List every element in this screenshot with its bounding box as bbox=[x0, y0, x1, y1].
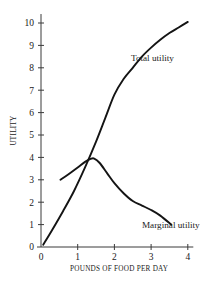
y-tick-label: 3 bbox=[29, 175, 34, 185]
curve-marginal-utility bbox=[60, 158, 171, 224]
x-tick-label: 3 bbox=[149, 252, 154, 262]
x-tick-label: 4 bbox=[185, 252, 190, 262]
series-label-total-utility: Total utility bbox=[131, 53, 174, 63]
series-annotations: Total utilityMarginal utility bbox=[131, 53, 200, 230]
y-tick-label: 0 bbox=[29, 242, 34, 252]
x-tick-label: 0 bbox=[39, 252, 44, 262]
utility-chart: 012345678910 01234 Total utilityMarginal… bbox=[0, 0, 220, 285]
x-tick-labels: 01234 bbox=[39, 252, 191, 262]
y-tick-label: 6 bbox=[29, 108, 34, 118]
y-tick-label: 8 bbox=[29, 63, 34, 73]
axes bbox=[37, 14, 193, 247]
y-tick-label: 2 bbox=[29, 198, 34, 208]
y-tick-label: 10 bbox=[25, 18, 35, 28]
y-tick-label: 4 bbox=[29, 153, 34, 163]
y-tick-label: 1 bbox=[29, 220, 34, 230]
chart-canvas: 012345678910 01234 Total utilityMarginal… bbox=[0, 0, 220, 285]
y-tick-label: 5 bbox=[29, 130, 34, 140]
x-tick-label: 1 bbox=[75, 252, 80, 262]
y-axis-title: UTILITY bbox=[10, 115, 18, 146]
series-label-marginal-utility: Marginal utility bbox=[142, 220, 200, 230]
x-tick-label: 2 bbox=[112, 252, 117, 262]
y-tick-label: 9 bbox=[29, 41, 34, 51]
y-tick-labels: 012345678910 bbox=[25, 18, 35, 252]
x-axis-title: POUNDS OF FOOD PER DAY bbox=[70, 265, 169, 273]
y-tick-label: 7 bbox=[29, 86, 34, 96]
